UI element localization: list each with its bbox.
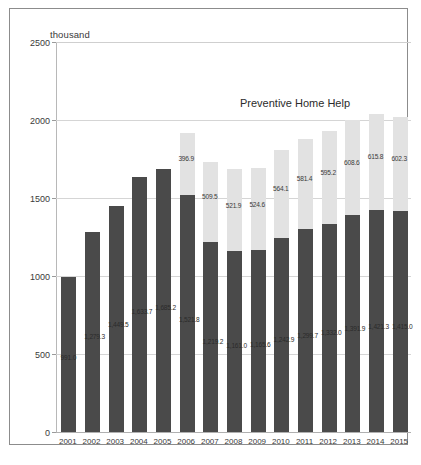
y-axis-tick-label: 2500 [16, 38, 50, 48]
x-axis-tick-label: 2002 [83, 437, 101, 446]
x-axis-tick-label: 2003 [106, 437, 124, 446]
bar-column: 1,279.3 [85, 42, 100, 432]
bar-value-label-home-help: 1,299.7 [297, 332, 318, 339]
bar-segment-preventive-home-help [298, 139, 313, 230]
bar-value-label-home-help: 1,685.2 [155, 304, 176, 311]
bar-value-label-home-help: 1,633.7 [132, 308, 153, 315]
x-axis-tick-label: 2008 [225, 437, 243, 446]
bar-value-label-preventive-home-help: 509.5 [202, 193, 218, 200]
x-axis-tick-label: 2012 [319, 437, 337, 446]
bar-segment-preventive-home-help [393, 117, 408, 211]
bar-value-label-home-help: 1,415.0 [392, 323, 413, 330]
bar-segment-home-help [109, 206, 124, 432]
bar-value-label-home-help: 1,165.6 [250, 341, 271, 348]
bar-segment-home-help [345, 215, 360, 432]
bar-value-label-preventive-home-help: 608.6 [344, 159, 360, 166]
x-axis-tick-label: 2013 [343, 437, 361, 446]
bar-segment-preventive-home-help [203, 162, 218, 241]
x-axis-tick-label: 2007 [201, 437, 219, 446]
bar-column: 1,415.0602.3 [393, 42, 408, 432]
bar-column: 991.0 [61, 42, 76, 432]
bar-column: 1,421.3615.8 [369, 42, 384, 432]
bar-group: 991.01,279.31,449.51,633.71,685.21,521.8… [57, 43, 411, 432]
x-axis-line [56, 432, 411, 433]
bar-value-label-home-help: 991.0 [61, 354, 77, 361]
bar-column: 1,449.5 [109, 42, 124, 432]
x-axis-tick-label: 2005 [154, 437, 172, 446]
bar-column: 1,685.2 [156, 42, 171, 432]
bar-value-label-preventive-home-help: 595.2 [320, 169, 336, 176]
y-axis-tick-mark [52, 432, 56, 433]
bar-value-label-home-help: 1,279.3 [84, 333, 105, 340]
bar-segment-preventive-home-help [180, 133, 195, 195]
bar-segment-home-help [393, 211, 408, 432]
bar-segment-home-help [322, 224, 337, 432]
y-axis-tick-label: 1000 [16, 272, 50, 282]
bar-column: 1,521.8396.9 [180, 42, 195, 432]
y-axis-ticks: 05001000150020002500 [10, 43, 50, 433]
bar-value-label-home-help: 1,521.8 [179, 316, 200, 323]
bar-value-label-home-help: 1,449.5 [108, 321, 129, 328]
bar-value-label-preventive-home-help: 564.1 [273, 185, 289, 192]
x-axis-tick-label: 2001 [59, 437, 77, 446]
x-axis-tick-label: 2011 [296, 437, 313, 446]
bar-segment-preventive-home-help [251, 168, 266, 250]
bar-segment-home-help [156, 169, 171, 432]
bar-value-label-preventive-home-help: 524.6 [249, 201, 265, 208]
bar-column: 1,633.7 [132, 42, 147, 432]
bar-value-label-preventive-home-help: 581.4 [297, 175, 313, 182]
bar-segment-home-help [298, 229, 313, 432]
bar-segment-preventive-home-help [274, 150, 289, 238]
x-axis-tick-label: 2015 [390, 437, 408, 446]
x-axis-tick-label: 2004 [130, 437, 148, 446]
y-axis-tick-mark [52, 120, 56, 121]
bar-value-label-home-help: 1,391.9 [345, 325, 366, 332]
bar-value-label-preventive-home-help: 521.9 [226, 202, 242, 209]
bar-segment-home-help [180, 195, 195, 432]
y-axis-tick-mark [52, 42, 56, 43]
y-axis-tick-label: 2000 [16, 116, 50, 126]
bar-segment-preventive-home-help [322, 131, 337, 224]
bar-segment-preventive-home-help [345, 120, 360, 215]
bar-value-label-home-help: 1,161.0 [226, 342, 247, 349]
axis-unit-label: thousand [50, 29, 90, 40]
chart-frame: thousand 05001000150020002500 991.01,279… [9, 8, 408, 445]
bar-value-label-home-help: 1,219.2 [203, 338, 224, 345]
x-axis-tick-label: 2010 [272, 437, 290, 446]
y-axis-tick-label: 500 [16, 350, 50, 360]
bar-segment-preventive-home-help [227, 169, 242, 250]
bar-value-label-home-help: 1,332.0 [321, 329, 342, 336]
bar-segment-preventive-home-help [369, 114, 384, 210]
x-axis-tick-label: 2014 [367, 437, 385, 446]
bar-value-label-preventive-home-help: 396.9 [178, 155, 194, 162]
bar-segment-home-help [369, 210, 384, 432]
x-axis-tick-label: 2006 [177, 437, 195, 446]
bar-column: 1,219.2509.5 [203, 42, 218, 432]
y-axis-tick-mark [52, 354, 56, 355]
bar-value-label-preventive-home-help: 602.3 [391, 155, 407, 162]
series-annotation-preventive-home-help: Preventive Home Help [240, 97, 350, 109]
y-axis-tick-label: 1500 [16, 194, 50, 204]
bar-value-label-home-help: 1,242.9 [274, 336, 295, 343]
bar-value-label-preventive-home-help: 615.8 [368, 153, 384, 160]
x-axis-tick-label: 2009 [248, 437, 266, 446]
y-axis-tick-label: 0 [16, 428, 50, 438]
bar-segment-home-help [132, 177, 147, 432]
y-axis-tick-mark [52, 276, 56, 277]
y-axis-tick-mark [52, 198, 56, 199]
plot-area: 991.01,279.31,449.51,633.71,685.21,521.8… [56, 43, 411, 433]
bar-value-label-home-help: 1,421.3 [368, 323, 389, 330]
